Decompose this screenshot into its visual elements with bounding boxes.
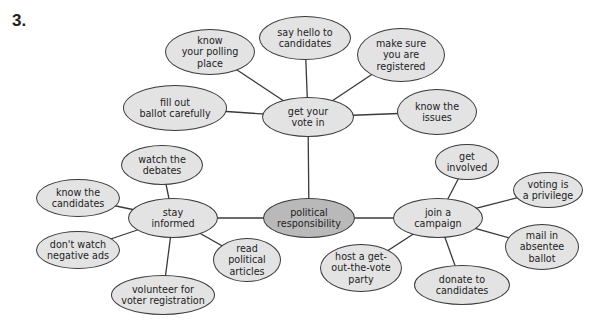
node-label: don't watch negative ads (47, 239, 109, 262)
node-host-get-out-the-vote-party: host a get- out-the-vote party (320, 244, 402, 292)
node-label: know the candidates (52, 187, 105, 210)
node-label: read political articles (228, 243, 266, 278)
node-fill-out-ballot: fill out ballot carefully (123, 85, 227, 131)
node-label: political responsibility (277, 207, 341, 230)
node-label: know the issues (415, 101, 459, 124)
node-know-your-polling-place: know your polling place (165, 29, 255, 75)
node-label: voting is a privilege (523, 179, 574, 202)
node-donate-to-candidates: donate to candidates (414, 265, 510, 305)
node-label: volunteer for voter registration (121, 284, 205, 307)
node-mail-in-absentee-ballot: mail in absentee ballot (505, 224, 579, 270)
node-political-responsibility: political responsibility (263, 198, 355, 238)
node-stay-informed: stay informed (128, 198, 218, 238)
node-make-sure-registered: make sure you are registered (357, 28, 445, 82)
node-get-involved: get involved (435, 144, 499, 180)
node-volunteer-voter-registration: volunteer for voter registration (111, 275, 215, 315)
node-get-your-vote-in: get your vote in (262, 97, 354, 137)
node-label: join a campaign (414, 207, 461, 230)
node-label: donate to candidates (436, 274, 489, 297)
node-label: host a get- out-the-vote party (331, 251, 390, 286)
node-label: fill out ballot carefully (139, 97, 210, 120)
node-watch-the-debates: watch the debates (121, 145, 203, 185)
node-label: watch the debates (138, 154, 186, 177)
node-know-the-issues: know the issues (397, 89, 477, 135)
node-label: make sure you are registered (376, 38, 426, 73)
node-label: get involved (447, 151, 488, 174)
node-label: mail in absentee ballot (520, 230, 565, 265)
node-dont-watch-negative-ads: don't watch negative ads (36, 231, 120, 269)
node-label: stay informed (151, 207, 194, 230)
node-know-the-candidates: know the candidates (36, 179, 120, 217)
node-label: know your polling place (182, 35, 239, 70)
node-label: say hello to candidates (277, 27, 332, 50)
node-say-hello-to-candidates: say hello to candidates (259, 16, 351, 60)
node-read-political-articles: read political articles (213, 238, 281, 282)
node-label: get your vote in (288, 106, 328, 129)
node-voting-is-a-privilege: voting is a privilege (513, 172, 583, 208)
node-join-a-campaign: join a campaign (393, 198, 483, 238)
